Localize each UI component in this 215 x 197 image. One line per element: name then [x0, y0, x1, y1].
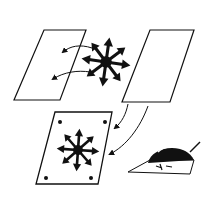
iron-cord	[190, 142, 200, 152]
arrow-to-result-sheet-bottom	[110, 106, 148, 154]
diagram-canvas	[0, 0, 215, 197]
corner-dot-bottom-right	[89, 176, 93, 180]
iron-sketch	[128, 142, 200, 174]
arrow-to-result-sheet-top	[115, 104, 128, 128]
sheet-right	[122, 30, 194, 102]
corner-dot-top-left	[58, 120, 62, 124]
corner-dot-bottom-left	[44, 176, 48, 180]
star-symbol	[78, 34, 134, 90]
corner-dot-top-right	[103, 120, 107, 124]
sheet-left	[14, 30, 86, 100]
